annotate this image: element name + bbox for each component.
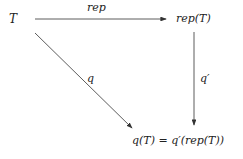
arrow-q — [35, 33, 132, 128]
label-rep: rep — [87, 2, 106, 13]
label-q: q — [87, 73, 94, 84]
node-result: q(T) = q′(rep(T)) — [132, 135, 224, 146]
label-q-prime: q′ — [200, 73, 210, 84]
node-rep-T: rep(T) — [176, 13, 211, 24]
node-T: T — [9, 13, 17, 25]
